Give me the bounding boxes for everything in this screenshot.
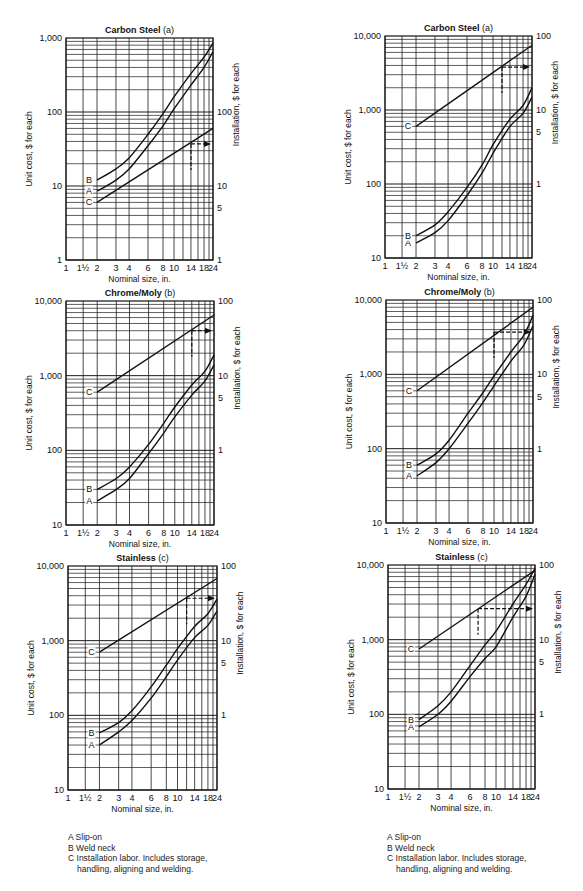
x-tick-label: 10 (170, 528, 180, 538)
chart-panel-carbon-steel-a-left: Carbon Steel (a)1101001,000151010011½234… (24, 25, 241, 284)
y2-tick-label: 1 (221, 710, 226, 720)
y2-tick-label: 10 (217, 181, 227, 191)
y2-axis-label: Installation, $ for each (231, 63, 241, 146)
x-tick-label: 2 (415, 526, 420, 536)
x-tick-label: 4 (447, 526, 452, 536)
series-a-label: A (406, 471, 412, 481)
series-a-label: A (88, 740, 94, 750)
y-tick-label: 10 (374, 784, 384, 794)
x-tick-label: 8 (164, 793, 169, 803)
x-tick-label: 1 (385, 792, 390, 802)
x-tick-label: 14 (186, 263, 196, 273)
x-axis-label: Nominal size, in. (427, 272, 489, 282)
y-tick-label: 100 (369, 709, 384, 719)
x-tick-label: 2 (414, 261, 419, 271)
x-tick-label: 4 (129, 793, 134, 803)
x-axis-label: Nominal size, in. (109, 539, 171, 549)
y-tick-label: 10,000 (354, 295, 382, 305)
chart-title: Chrome/Moly (b) (105, 288, 176, 298)
y-tick-label: 10 (371, 253, 381, 263)
chart-title: Stainless (c) (435, 552, 488, 562)
y-tick-label: 1,000 (359, 369, 382, 379)
dashed-arrow-annotation (502, 64, 530, 93)
x-axis-label: Nominal size, in. (108, 274, 170, 284)
x-tick-label: 24 (530, 792, 540, 802)
y-tick-label: 10 (372, 518, 382, 528)
legend-item-c-continuation: handling, aligning and welding. (387, 864, 526, 875)
y2-tick-label: 1 (536, 179, 541, 189)
x-tick-label: 10 (491, 792, 501, 802)
x-tick-label: 1½ (79, 793, 92, 803)
legend-item-b: B Weld neck (68, 843, 207, 854)
y-axis-label: Unit cost, $ for each (344, 373, 354, 449)
y-tick-label: 10,000 (353, 31, 381, 41)
x-tick-label: 1 (63, 528, 68, 538)
x-axis-label: Nominal size, in. (111, 804, 173, 814)
x-tick-label: 6 (146, 528, 151, 538)
series-b-label: B (88, 728, 94, 738)
series-a-label: A (86, 186, 92, 196)
y2-tick-label: 5 (218, 393, 223, 403)
legend-item-a: A Slip-on (387, 832, 526, 843)
series-a-label: A (86, 496, 92, 506)
series-b-label: B (405, 231, 411, 241)
y2-tick-label: 100 (539, 560, 554, 570)
x-tick-label: 1 (65, 793, 70, 803)
x-tick-label: 4 (449, 792, 454, 802)
x-tick-label: 8 (481, 526, 486, 536)
grid (68, 566, 217, 790)
grid (66, 38, 213, 260)
x-tick-label: 2 (95, 263, 100, 273)
x-tick-label: 8 (480, 261, 485, 271)
y2-tick-label: 100 (221, 561, 236, 571)
dashed-arrow-annotation (192, 328, 212, 357)
y2-tick-label: 10 (539, 635, 549, 645)
series-b-label: B (406, 460, 412, 470)
x-tick-label: 1½ (77, 528, 90, 538)
y2-tick-label: 5 (221, 658, 226, 668)
x-tick-label: 14 (187, 528, 197, 538)
series-c-line (417, 307, 533, 391)
y-tick-label: 1,000 (361, 635, 384, 645)
y2-tick-label: 10 (537, 369, 547, 379)
chart-panel-chrome-moly-b-left: Chrome/Moly (b)101001,00010,000151010011… (24, 288, 242, 549)
series-b-label: B (408, 715, 414, 725)
x-tick-label: 1 (382, 261, 387, 271)
x-tick-label: 6 (465, 261, 470, 271)
x-tick-label: 1 (383, 526, 388, 536)
x-tick-label: 10 (169, 263, 179, 273)
legend-right: A Slip-on B Weld neck C Installation lab… (387, 832, 526, 874)
x-tick-label: 3 (435, 792, 440, 802)
x-tick-label: 3 (113, 263, 118, 273)
y-axis-label: Unit cost, $ for each (346, 639, 356, 715)
y-tick-label: 1 (57, 255, 62, 265)
series-c-label: C (88, 647, 95, 657)
x-tick-label: 24 (212, 793, 222, 803)
y2-tick-label: 10 (221, 636, 231, 646)
chart-panel-carbon-steel-a-right: Carbon Steel (a)101001,00010,00015101001… (343, 23, 560, 282)
x-tick-label: 14 (506, 526, 516, 536)
x-tick-label: 1 (63, 263, 68, 273)
x-tick-label: 14 (508, 792, 518, 802)
y2-tick-label: 1 (218, 445, 223, 455)
series-b-line (99, 599, 217, 733)
x-tick-label: 3 (432, 261, 437, 271)
series-b-label: B (86, 175, 92, 185)
chart-panel-stainless-c-right: Stainless (c)101001,00010,000151010011½2… (346, 552, 563, 813)
chart-panel-chrome-moly-b-right: Chrome/Moly (b)101001,00010,000151010011… (344, 287, 561, 547)
legend-item-c: C Installation labor. Includes storage, (68, 853, 207, 864)
y-tick-label: 100 (49, 710, 64, 720)
y2-axis-label: Installation, $ for each (550, 61, 560, 144)
series-c-label: C (405, 121, 412, 131)
x-tick-label: 10 (173, 793, 183, 803)
x-tick-label: 6 (146, 263, 151, 273)
y-tick-label: 100 (47, 445, 62, 455)
y-tick-label: 100 (47, 107, 62, 117)
x-tick-label: 1½ (399, 792, 412, 802)
y-tick-label: 1,000 (39, 371, 62, 381)
chart-title: Carbon Steel (a) (424, 23, 493, 33)
dashed-arrow-annotation (191, 141, 211, 170)
series-b-line (417, 315, 533, 465)
y2-axis-label: Installation, $ for each (232, 326, 242, 409)
y2-tick-label: 1 (539, 709, 544, 719)
